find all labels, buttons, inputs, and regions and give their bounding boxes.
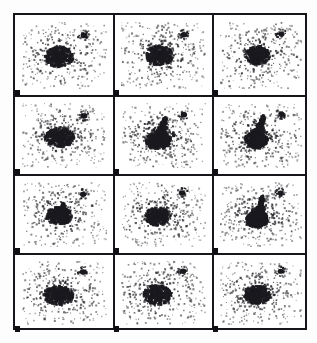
corner-tick-r4-c2 — [114, 326, 119, 332]
corner-tick-r3-c2 — [114, 248, 119, 254]
panel-scatter-canvas — [22, 103, 107, 168]
image-panel-r4-c1[interactable] — [22, 261, 107, 325]
panel-scatter-canvas — [220, 22, 302, 89]
corner-tick-r1-c2 — [114, 90, 119, 96]
panel-scatter-canvas — [121, 182, 206, 247]
grid-divider-horizontal-2 — [15, 174, 305, 176]
panel-scatter-canvas — [121, 103, 206, 168]
panel-scatter-canvas — [22, 182, 107, 247]
corner-tick-r1-c3 — [213, 90, 218, 96]
corner-tick-r4-c3 — [213, 326, 218, 332]
image-panel-r1-c3[interactable] — [220, 22, 302, 89]
image-panel-r4-c2[interactable] — [121, 261, 206, 325]
image-panel-r3-c3[interactable] — [220, 182, 302, 247]
panel-scatter-canvas — [220, 103, 302, 168]
panel-scatter-canvas — [220, 261, 302, 325]
grid-divider-horizontal-1 — [15, 95, 305, 97]
corner-tick-r3-c1 — [15, 248, 20, 254]
figure-root — [0, 0, 317, 343]
panel-grid-frame — [13, 13, 307, 330]
image-panel-r2-c2[interactable] — [121, 103, 206, 168]
panel-scatter-canvas — [121, 22, 206, 89]
corner-tick-r4-c1 — [15, 326, 20, 332]
panel-scatter-canvas — [121, 261, 206, 325]
image-panel-r3-c2[interactable] — [121, 182, 206, 247]
panel-scatter-canvas — [220, 182, 302, 247]
corner-tick-r3-c3 — [213, 248, 218, 254]
corner-tick-r2-c2 — [114, 169, 119, 175]
panel-scatter-canvas — [22, 22, 107, 89]
image-panel-r2-c1[interactable] — [22, 103, 107, 168]
grid-divider-horizontal-3 — [15, 253, 305, 255]
image-panel-r1-c1[interactable] — [22, 22, 107, 89]
image-panel-r4-c3[interactable] — [220, 261, 302, 325]
image-panel-r3-c1[interactable] — [22, 182, 107, 247]
panel-scatter-canvas — [22, 261, 107, 325]
corner-tick-r1-c1 — [15, 90, 20, 96]
corner-tick-r2-c3 — [213, 169, 218, 175]
corner-tick-r2-c1 — [15, 169, 20, 175]
image-panel-r2-c3[interactable] — [220, 103, 302, 168]
image-panel-r1-c2[interactable] — [121, 22, 206, 89]
